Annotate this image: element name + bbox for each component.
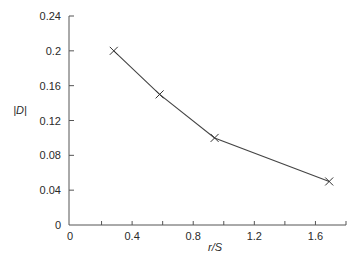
x-tick-label: 0 <box>67 230 73 242</box>
y-axis-label: |D| <box>13 104 27 116</box>
y-tick-label: 0.24 <box>40 10 61 22</box>
y-tick-label: 0 <box>55 219 61 231</box>
x-marker-icon <box>211 134 219 142</box>
x-tick-label: 0.4 <box>124 230 139 242</box>
line-chart: 00.040.080.120.160.20.24 00.40.81.21.6 |… <box>0 0 357 265</box>
x-tick-label: 1.6 <box>308 230 323 242</box>
y-tick-label: 0.2 <box>46 45 61 57</box>
x-tick-label: 0.8 <box>186 230 201 242</box>
y-axis: 00.040.080.120.160.20.24 <box>40 10 74 231</box>
series-line <box>114 51 329 182</box>
chart-canvas: 00.040.080.120.160.20.24 00.40.81.21.6 |… <box>0 0 357 265</box>
x-axis-label: r/S <box>208 241 223 253</box>
x-marker-icon <box>110 47 118 55</box>
series-layer <box>110 47 333 186</box>
y-tick-label: 0.16 <box>40 80 61 92</box>
x-marker-icon <box>156 90 164 98</box>
y-tick-label: 0.12 <box>40 115 61 127</box>
x-marker-icon <box>325 177 333 185</box>
y-tick-label: 0.04 <box>40 184 61 196</box>
x-axis: 00.40.81.21.6 <box>67 221 346 242</box>
x-tick-label: 1.2 <box>247 230 262 242</box>
y-tick-label: 0.08 <box>40 149 61 161</box>
